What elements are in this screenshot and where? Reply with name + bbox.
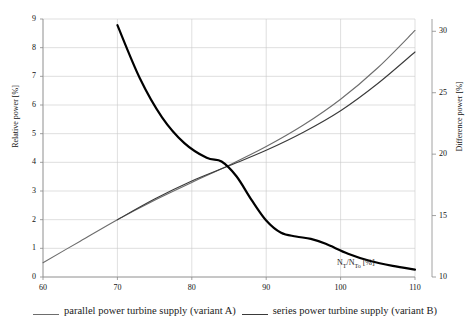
y-tick-right-25: 25 xyxy=(439,89,455,97)
plot-area xyxy=(43,19,415,277)
y-tick-left-8: 8 xyxy=(22,44,36,52)
y-axis-right-title: Difference power [%] xyxy=(455,72,464,162)
chart-legend: parallel power turbine supply (variant A… xyxy=(0,300,470,321)
x-tick-80: 80 xyxy=(181,284,203,292)
y-tick-left-5: 5 xyxy=(22,130,36,138)
y-tick-left-0: 0 xyxy=(22,273,36,281)
x-axis-title: NT/NTo [%] xyxy=(337,258,375,269)
legend-item-1: parallel power turbine supply (variant A… xyxy=(33,305,236,316)
y-tick-left-9: 9 xyxy=(22,15,36,23)
x-tick-60: 60 xyxy=(32,284,54,292)
legend-swatch-line-icon xyxy=(242,314,268,315)
y-tick-left-6: 6 xyxy=(22,101,36,109)
y-tick-left-4: 4 xyxy=(22,158,36,166)
y-tick-right-30: 30 xyxy=(439,27,455,35)
y-tick-right-15: 15 xyxy=(439,212,455,220)
legend-label: series power turbine supply (variant B) xyxy=(273,305,437,316)
y-tick-left-3: 3 xyxy=(22,187,36,195)
x-tick-70: 70 xyxy=(106,284,128,292)
y-tick-left-2: 2 xyxy=(22,216,36,224)
chart-figure: 0123456789101520253060708090100110 Relat… xyxy=(0,0,470,321)
y-tick-left-1: 1 xyxy=(22,244,36,252)
y-tick-right-10: 10 xyxy=(439,273,455,281)
y-tick-right-20: 20 xyxy=(439,150,455,158)
x-tick-110: 110 xyxy=(404,284,426,292)
legend-swatch-line-icon xyxy=(33,314,59,315)
y-tick-left-7: 7 xyxy=(22,72,36,80)
x-tick-90: 90 xyxy=(255,284,277,292)
legend-label: parallel power turbine supply (variant A… xyxy=(64,305,236,316)
x-tick-100: 100 xyxy=(330,284,352,292)
legend-item-2: series power turbine supply (variant B) xyxy=(242,305,437,316)
y-axis-left-title: Relative power [%] xyxy=(11,74,20,160)
x-axis-title-unit: [%] xyxy=(361,258,375,267)
